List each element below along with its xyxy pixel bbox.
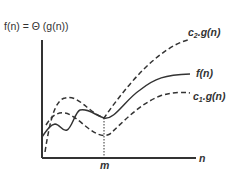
m-label: m [100,159,109,171]
f-n-label: f(n) [196,67,213,79]
theta-notation-diagram: f(n) = Θ (g(n)) n m c2.g(n) f(n) c1.g(n) [0,0,239,181]
c1-g-n-label: c1.g(n) [193,90,226,103]
c2-g-n-label: c2.g(n) [188,26,221,39]
diagram-title: f(n) = Θ (g(n)) [4,20,68,32]
c2-g-n-curve [45,40,188,152]
x-axis-label: n [199,152,205,164]
